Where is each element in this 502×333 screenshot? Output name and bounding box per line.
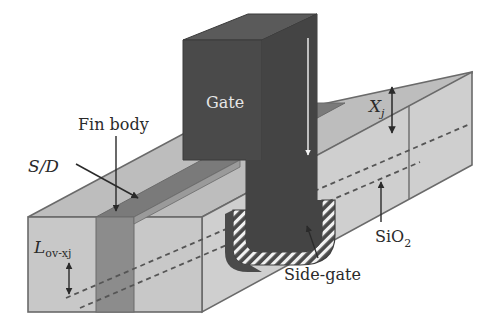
fin-front-section — [96, 217, 134, 312]
finfet-diagram: Gate Fin body S/D Xj Lov-xj SiO2 Side-ga… — [0, 0, 502, 333]
side-gate-label: Side-gate — [284, 265, 361, 284]
gate-label: Gate — [206, 93, 244, 112]
sio2-label-main: SiO — [375, 227, 404, 246]
xj-label-main: X — [367, 96, 382, 116]
lov-xj-label-sub: ov-xj — [45, 247, 71, 260]
source-drain-label: S/D — [28, 156, 59, 176]
lov-xj-label-main: L — [33, 237, 45, 257]
fin-body-label: Fin body — [78, 115, 149, 134]
sio2-label: SiO2 — [375, 227, 411, 250]
sio2-label-sub: 2 — [404, 237, 411, 250]
